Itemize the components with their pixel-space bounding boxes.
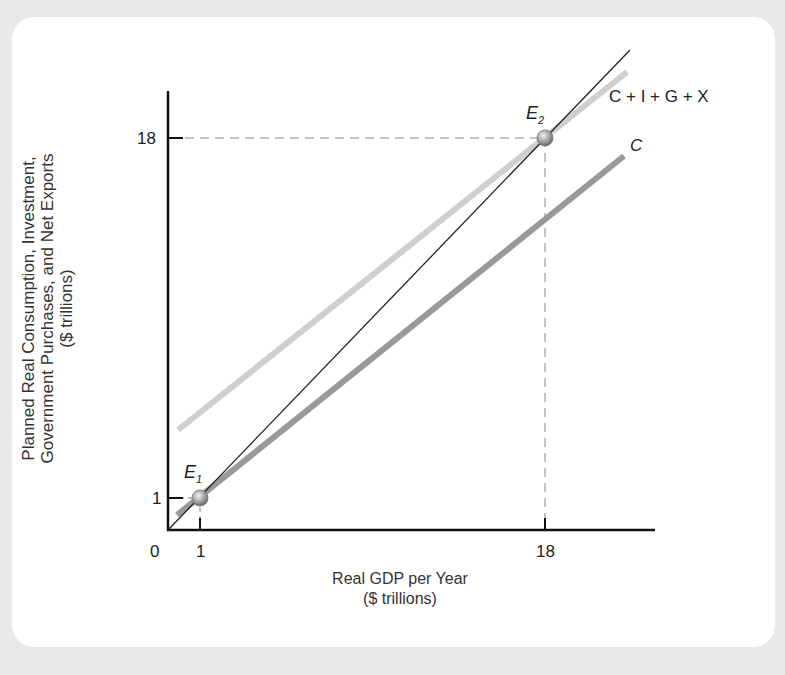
x-axis-title-main: Real GDP per Year <box>270 569 530 589</box>
y-axis-title: Planned Real Consumption, Investment, Go… <box>19 79 76 539</box>
x-axis-title: Real GDP per Year ($ trillions) <box>270 569 530 609</box>
equilibrium-point-e1 <box>192 490 208 506</box>
x-tick-label-1: 1 <box>196 543 205 560</box>
y-tick-label-1: 1 <box>152 490 161 507</box>
x-tick-label-18: 18 <box>536 543 555 560</box>
forty-five-degree-line <box>168 50 630 530</box>
consumption-line <box>177 156 624 515</box>
y-axis-title-line3: ($ trillions) <box>57 79 76 539</box>
consumption-curve-label: C <box>630 137 642 154</box>
y-tick-label-18: 18 <box>137 130 156 147</box>
x-axis-title-units: ($ trillions) <box>270 589 530 609</box>
aggregate-expenditure-line <box>178 72 627 430</box>
e1-label: E1 <box>184 463 202 485</box>
e2-label: E2 <box>526 104 544 126</box>
y-axis-title-line2: Government Purchases, and Net Exports <box>38 79 57 539</box>
equilibrium-point-e2 <box>537 130 553 146</box>
y-axis-title-line1: Planned Real Consumption, Investment, <box>19 79 38 539</box>
aggregate-curve-label: C + I + G + X <box>609 88 709 105</box>
origin-label: 0 <box>150 543 159 560</box>
